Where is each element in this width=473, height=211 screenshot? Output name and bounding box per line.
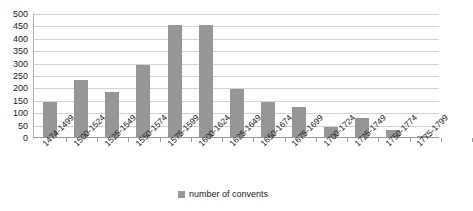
x-axis-tick-labels: 1474-14991500-15241525-15491550-15741575… [0, 142, 446, 184]
y-axis-tick-label: 50 [18, 121, 28, 130]
y-axis-tick-label: 250 [13, 72, 28, 81]
y-axis-tick-label: 100 [13, 109, 28, 118]
bar-slot [34, 14, 65, 137]
y-axis-tick-label: 400 [13, 34, 28, 43]
legend: number of convents [0, 190, 446, 199]
y-axis-tick-label: 300 [13, 59, 28, 68]
y-axis-tick-label: 150 [13, 96, 28, 105]
bar[interactable] [168, 25, 182, 137]
legend-swatch-icon [178, 191, 185, 198]
y-axis-tick-label: 500 [13, 10, 28, 19]
y-axis-tick-labels: 500450400350300250200150100500 [0, 14, 31, 138]
y-axis-tick-label: 450 [13, 22, 28, 31]
y-axis-tick-label: 350 [13, 47, 28, 56]
legend-label: number of convents [189, 190, 268, 199]
y-axis-tick-label: 200 [13, 84, 28, 93]
bar[interactable] [199, 25, 213, 137]
